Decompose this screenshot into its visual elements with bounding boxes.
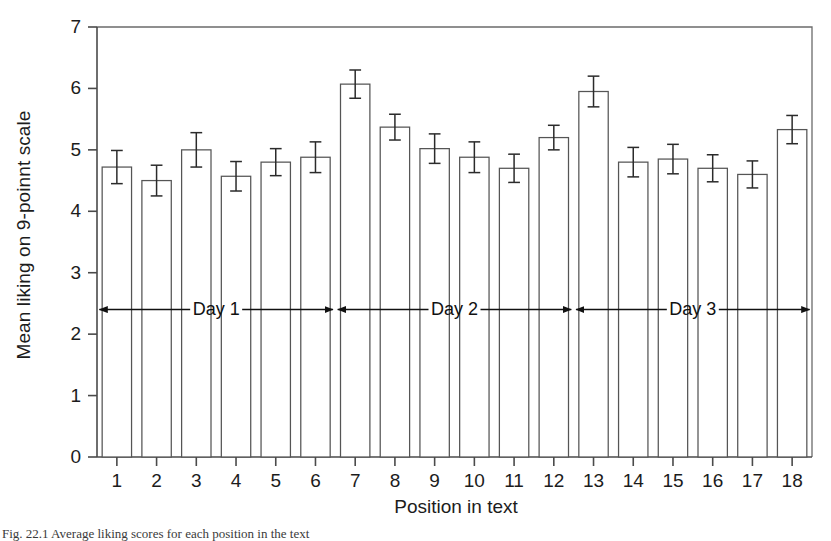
x-tick-label: 18 [782, 470, 803, 491]
x-tick-label: 13 [583, 470, 604, 491]
x-tick-label: 11 [504, 470, 524, 491]
day-span-annotation: Day 1 [99, 299, 333, 319]
x-tick-label: 3 [191, 470, 202, 491]
bar-chart-plot: 01234567123456789101112131415161718Day 1… [0, 0, 831, 541]
y-tick-label: 2 [70, 323, 81, 344]
y-tick-label: 7 [70, 16, 81, 37]
y-tick-label: 1 [70, 385, 81, 406]
x-tick-label: 2 [151, 470, 162, 491]
x-tick-label: 15 [662, 470, 683, 491]
x-axis-title: Position in text [96, 496, 816, 518]
x-tick-label: 7 [350, 470, 361, 491]
x-axis-title-text: Position in text [394, 496, 518, 517]
x-tick-label: 8 [390, 470, 401, 491]
bar [499, 168, 528, 457]
bar [341, 84, 370, 457]
bar [102, 167, 131, 457]
bar [738, 174, 767, 457]
bar [539, 138, 568, 457]
bar [142, 181, 171, 457]
day-span-label: Day 3 [669, 299, 716, 319]
x-tick-label: 17 [742, 470, 763, 491]
y-tick-label: 4 [70, 200, 81, 221]
figure-caption-text: Fig. 22.1 Average liking scores for each… [2, 526, 309, 541]
bar [301, 157, 330, 457]
x-tick-label: 12 [543, 470, 564, 491]
bar [777, 130, 806, 457]
day-span-annotation: Day 2 [338, 299, 572, 319]
figure-page: Mean liking on 9-poinnt scale 0123456712… [0, 0, 831, 541]
x-tick-label: 4 [231, 470, 242, 491]
x-tick-label: 5 [270, 470, 281, 491]
x-tick-label: 10 [464, 470, 485, 491]
x-tick-label: 14 [623, 470, 645, 491]
x-tick-label: 1 [112, 470, 123, 491]
bar [579, 92, 608, 458]
y-tick-label: 0 [70, 446, 81, 467]
figure-caption: Fig. 22.1 Average liking scores for each… [2, 524, 830, 541]
day-span-label: Day 1 [193, 299, 240, 319]
day-span-annotation: Day 3 [576, 299, 810, 319]
bar [380, 127, 409, 457]
day-span-label: Day 2 [431, 299, 478, 319]
y-tick-label: 5 [70, 139, 81, 160]
x-tick-label: 16 [702, 470, 723, 491]
y-tick-label: 3 [70, 262, 81, 283]
x-tick-label: 9 [429, 470, 440, 491]
y-tick-label: 6 [70, 77, 81, 98]
x-tick-label: 6 [310, 470, 321, 491]
